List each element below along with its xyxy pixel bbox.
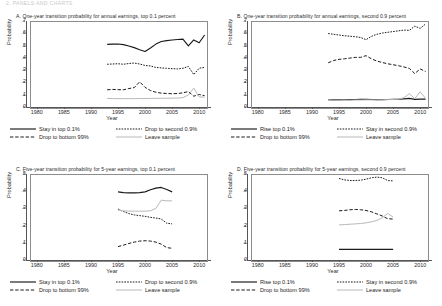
series-line (107, 35, 204, 51)
panel-c-series (26, 174, 210, 260)
x-axis-tick-label: 1980 (252, 109, 264, 115)
x-axis-tick-mark (64, 107, 65, 109)
legend-item: Drop to bottom 99% (231, 133, 310, 141)
panel-c-legend: Stay in top 0.1%Drop to second 0.9%Drop … (10, 278, 216, 294)
x-axis-tick-label: 1990 (306, 262, 318, 268)
y-axis-tick-mark (244, 107, 246, 108)
x-axis-tick-mark (91, 107, 92, 109)
legend-key-light-solid-icon (116, 287, 142, 293)
series-line (118, 241, 172, 249)
legend-key-solid-icon (10, 279, 36, 285)
panel-a: A. One-year transition probability for a… (0, 8, 221, 157)
legend-row: Drop to bottom 99%Leave sample (231, 286, 437, 294)
series-line (339, 214, 393, 225)
legend-item: Stay in top 0.1% (10, 125, 80, 133)
x-axis-label: Year (106, 115, 117, 121)
panel-c-ylabel: Probability (6, 172, 12, 198)
legend-item: Stay in second 0.9% (337, 278, 417, 286)
panel-c: C. Five-year transition probability for … (0, 161, 221, 306)
legend-label: Leave sample (366, 286, 401, 294)
legend-row: Drop to bottom 99%Leave sample (231, 133, 437, 141)
panel-c-plot: Probability 0.1.2.3.4.519801985199019952… (14, 174, 210, 271)
x-axis-tick-mark (366, 107, 367, 109)
x-axis-tick-label: 1980 (31, 262, 43, 268)
x-axis-tick-label: 1985 (279, 109, 291, 115)
running-header: 2. PANELS AND CHARTS (6, 0, 206, 7)
legend-item: Drop to second 0.9% (116, 278, 197, 286)
figure-panel-grid: A. One-year transition probability for a… (0, 8, 442, 306)
x-axis-tick-mark (258, 107, 259, 109)
y-axis-tick-mark (23, 242, 25, 243)
y-axis-tick-mark (244, 45, 246, 46)
x-axis-tick-mark (339, 260, 340, 262)
legend-row: Rise top 0.1%Stay in second 0.9% (231, 125, 437, 133)
legend-row: Drop to bottom 99%Leave sample (10, 133, 216, 141)
legend-label: Leave sample (145, 286, 180, 294)
legend-label: Drop to bottom 99% (39, 133, 89, 141)
legend-key-dashed-icon (10, 134, 36, 140)
y-axis-tick-mark (244, 21, 246, 22)
legend-label: Drop to second 0.9% (145, 125, 197, 133)
panel-d-plot: Probability 0.1.2.3.4.519801985199019952… (235, 174, 431, 271)
legend-item: Stay in top 0.1% (10, 278, 80, 286)
legend-row: Stay in top 0.1%Drop to second 0.9% (10, 278, 216, 286)
series-line (328, 24, 425, 40)
panel-b-series (247, 21, 431, 107)
x-axis-tick-label: 1990 (85, 262, 97, 268)
legend-key-solid-icon (231, 279, 257, 285)
x-axis-tick-mark (91, 260, 92, 262)
y-axis-tick-mark (23, 21, 25, 22)
legend-key-light-solid-icon (337, 287, 363, 293)
legend-row: Stay in top 0.1%Drop to second 0.9% (10, 125, 216, 133)
series-line (107, 82, 204, 96)
x-axis-tick-mark (393, 107, 394, 109)
y-axis-tick-mark (23, 57, 25, 58)
legend-key-dashed-icon (10, 287, 36, 293)
legend-label: Stay in second 0.9% (366, 125, 417, 133)
legend-key-dotted-icon (116, 126, 142, 132)
y-axis-tick-mark (244, 70, 246, 71)
x-axis-tick-label: 2005 (387, 262, 399, 268)
x-axis-label: Year (106, 268, 117, 274)
y-axis-tick-mark (244, 191, 246, 192)
panel-d-ylabel: Probability (227, 172, 233, 198)
x-axis-tick-mark (366, 260, 367, 262)
x-axis-tick-mark (285, 107, 286, 109)
legend-key-light-solid-icon (116, 134, 142, 140)
x-axis-tick-mark (312, 260, 313, 262)
x-axis-tick-mark (339, 107, 340, 109)
y-axis-tick-mark (244, 225, 246, 226)
y-axis-tick-mark (23, 82, 25, 83)
y-axis-tick-mark (244, 174, 246, 175)
x-axis-tick-mark (199, 107, 200, 109)
series-line (118, 200, 172, 211)
x-axis-tick-mark (172, 260, 173, 262)
legend-key-solid-icon (10, 126, 36, 132)
x-axis-tick-label: 2005 (387, 109, 399, 115)
x-axis-tick-mark (172, 107, 173, 109)
legend-label: Drop to bottom 99% (39, 286, 89, 294)
x-axis-tick-mark (312, 107, 313, 109)
x-axis-tick-mark (64, 260, 65, 262)
panel-a-series (26, 21, 210, 107)
x-axis-tick-label: 2000 (139, 109, 151, 115)
x-axis-tick-mark (118, 260, 119, 262)
x-axis-tick-label: 1990 (306, 109, 318, 115)
panel-d: D. Five-year transition probability for … (221, 161, 442, 306)
series-line (339, 177, 393, 181)
x-axis-tick-label: 2000 (139, 262, 151, 268)
x-axis-tick-label: 1980 (31, 109, 43, 115)
y-axis-tick-mark (244, 242, 246, 243)
y-axis-tick-mark (23, 33, 25, 34)
legend-item: Drop to bottom 99% (10, 133, 89, 141)
legend-key-dotted-icon (116, 279, 142, 285)
series-line (107, 63, 204, 75)
x-axis-tick-mark (285, 260, 286, 262)
legend-label: Stay in top 0.1% (39, 125, 80, 133)
x-axis-tick-label: 2010 (414, 262, 426, 268)
y-axis-tick-mark (244, 82, 246, 83)
legend-key-dashed-icon (231, 287, 257, 293)
panel-a-title: A. One-year transition probability for a… (16, 13, 176, 19)
x-axis-tick-mark (37, 260, 38, 262)
panel-b: B. One-year transition probability for a… (221, 8, 442, 157)
